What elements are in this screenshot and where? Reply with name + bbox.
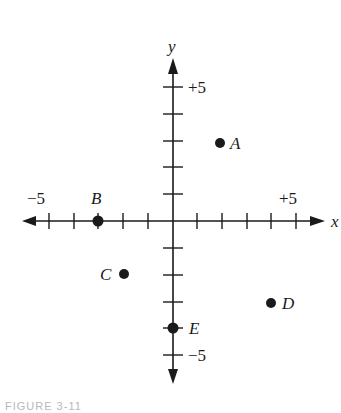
point-d-label: D (281, 294, 295, 313)
y-axis-label: y (166, 37, 176, 56)
point-c-label: C (100, 265, 112, 284)
y-pos-5-label: +5 (188, 78, 206, 97)
x-axis-right-arrow-icon (310, 216, 325, 226)
point-a: A (215, 134, 241, 153)
x-axis-label: x (330, 212, 339, 231)
point-b-label: B (91, 189, 102, 208)
y-neg-5-label: −5 (188, 346, 206, 365)
x-axis-left-arrow-icon (22, 216, 36, 226)
coordinate-plane: y x +5 −5 −5 +5 A B C D E (0, 0, 341, 413)
x-pos-5-label: +5 (279, 189, 297, 208)
point-d: D (266, 294, 295, 313)
y-axis-down-arrow-icon (168, 369, 178, 384)
point-a-label: A (229, 134, 241, 153)
x-neg-5-label: −5 (27, 189, 45, 208)
point-c: C (100, 265, 129, 284)
point-e-label: E (188, 319, 200, 338)
y-axis-up-arrow-icon (168, 58, 178, 74)
point-b: B (91, 189, 104, 227)
figure-caption: FIGURE 3-11 (5, 400, 82, 412)
